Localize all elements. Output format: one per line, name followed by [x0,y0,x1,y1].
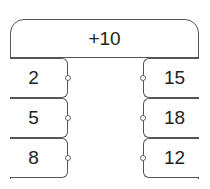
input-value: 2 [28,67,39,89]
output-value: 15 [164,67,185,89]
connector-icon [140,75,146,81]
output-value: 12 [164,147,185,169]
output-cell: 15 [143,58,199,98]
connector-icon [140,155,146,161]
input-value: 8 [28,147,39,169]
input-cell: 8 [10,138,68,178]
function-rule-header: +10 [10,19,199,58]
input-value: 5 [28,107,39,129]
output-value: 18 [164,107,185,129]
rule-label: +10 [88,28,120,50]
input-cell: 2 [10,58,68,98]
connector-icon [65,155,71,161]
connector-icon [140,115,146,121]
connector-icon [65,75,71,81]
output-cell: 12 [143,138,199,178]
connector-icon [65,115,71,121]
output-cell: 18 [143,98,199,138]
input-cell: 5 [10,98,68,138]
